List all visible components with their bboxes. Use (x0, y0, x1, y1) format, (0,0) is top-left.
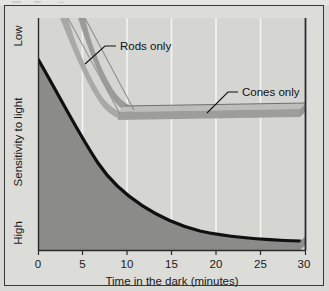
xtick-label-15: 15 (165, 258, 178, 270)
xtick-label-30: 30 (298, 258, 311, 270)
chart-canvas: 0 5 10 15 20 25 30 Time in the dark (min… (0, 0, 329, 291)
y-axis-label: Sensitivity to light (12, 97, 24, 187)
y-axis-bottom-label: High (12, 221, 24, 245)
xtick-label-0: 0 (35, 258, 41, 270)
rods-annotation-label: Rods only (120, 40, 171, 52)
xtick-label-10: 10 (121, 258, 134, 270)
cones-annotation-label: Cones only (242, 86, 300, 98)
dark-adaptation-chart-figure: 0 5 10 15 20 25 30 Time in the dark (min… (0, 0, 329, 291)
xtick-label-25: 25 (254, 258, 267, 270)
xtick-label-5: 5 (79, 258, 85, 270)
x-axis-label: Time in the dark (minutes) (105, 275, 238, 287)
xtick-label-20: 20 (210, 258, 223, 270)
y-axis-top-label: Low (12, 25, 24, 47)
